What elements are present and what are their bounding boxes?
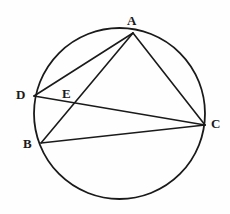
segment-ab: [41, 33, 133, 143]
vertex-label-d: D: [16, 88, 25, 101]
vertex-label-c: C: [211, 117, 220, 130]
circumscribed-circle: [34, 28, 205, 199]
vertex-label-a: A: [127, 14, 136, 27]
segment-ac: [133, 33, 205, 125]
segment-bc: [41, 125, 205, 143]
geometry-canvas: [0, 0, 230, 214]
vertex-label-e: E: [62, 87, 71, 100]
vertex-label-b: B: [23, 137, 32, 150]
chord-group: [34, 33, 205, 143]
geometry-figure: A D E B C: [0, 0, 230, 214]
